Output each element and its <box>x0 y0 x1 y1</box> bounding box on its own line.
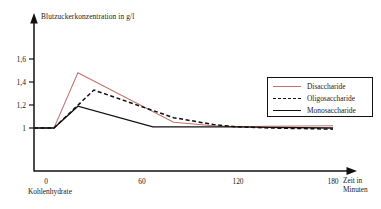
x-axis <box>34 167 357 175</box>
chart-legend: Disaccharide Oligosaccharide Monosacchar… <box>267 77 373 117</box>
y-tick-label-1-6: 1,6 <box>4 55 26 64</box>
x-axis-title-line2: Minuten <box>343 185 368 194</box>
x-axis-title: Zeit in Minuten <box>343 176 368 194</box>
legend-item-oligosaccharide: Oligosaccharide <box>268 92 372 104</box>
origin-caption-kohlenhydrate: Kohlenhydrate <box>28 187 72 196</box>
y-axis <box>30 13 38 172</box>
legend-label-monosaccharide: Monosaccharide <box>307 106 356 115</box>
x-tick-label-0: 0 <box>33 177 59 186</box>
legend-label-oligosaccharide: Oligosaccharide <box>307 94 355 103</box>
chart-figure: Blutzuckerkonzentration in g/l 1 1,2 1,4… <box>0 0 381 209</box>
legend-item-monosaccharide: Monosaccharide <box>268 104 372 116</box>
x-tick-label-120: 120 <box>225 177 251 186</box>
legend-line-sample-dashed-black <box>273 93 301 103</box>
x-tick-label-60: 60 <box>129 177 155 186</box>
x-axis-title-line1: Zeit in <box>343 176 368 185</box>
y-tick-label-1-2: 1,2 <box>4 101 26 110</box>
legend-item-disaccharide: Disaccharide <box>268 80 372 92</box>
legend-line-sample-solid-red <box>273 81 301 91</box>
legend-line-sample-solid-black <box>273 105 301 115</box>
legend-label-disaccharide: Disaccharide <box>307 82 346 91</box>
y-axis-title: Blutzuckerkonzentration in g/l <box>41 12 134 21</box>
y-tick-label-1-4: 1,4 <box>4 78 26 87</box>
y-tick-label-1: 1 <box>4 124 26 133</box>
